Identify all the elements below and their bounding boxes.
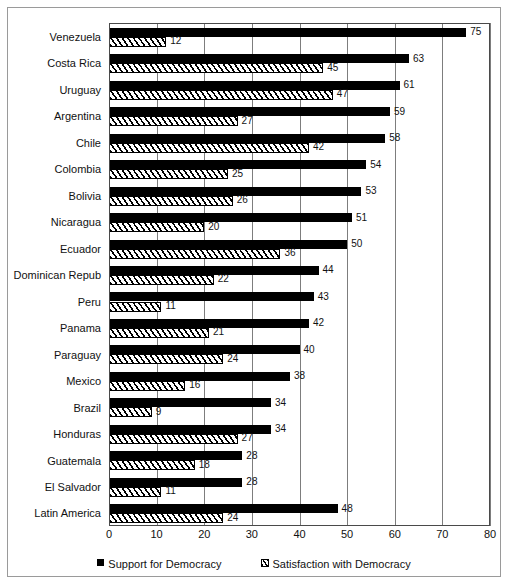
bar-support bbox=[109, 319, 309, 328]
category-label: Bolivia bbox=[69, 190, 101, 202]
category-label: Paraguay bbox=[54, 349, 101, 361]
bar-row: 5425 bbox=[109, 155, 490, 181]
category-label: Uruguay bbox=[59, 84, 101, 96]
gridline bbox=[490, 23, 491, 526]
bar-support bbox=[109, 54, 409, 63]
bar-value-support: 40 bbox=[304, 345, 315, 355]
bar-row: 7512 bbox=[109, 23, 490, 49]
bar-support bbox=[109, 187, 361, 196]
category-label: Costa Rica bbox=[47, 57, 101, 69]
bar-row: 2811 bbox=[109, 473, 490, 499]
category-label: Peru bbox=[78, 296, 101, 308]
bar-value-support: 28 bbox=[246, 477, 257, 487]
bar-value-satisfaction: 16 bbox=[189, 380, 200, 390]
bar-support bbox=[109, 345, 300, 354]
x-tick-label: 60 bbox=[389, 528, 401, 540]
bar-row: 5326 bbox=[109, 182, 490, 208]
bar-value-satisfaction: 42 bbox=[313, 142, 324, 152]
bar-satisfaction bbox=[109, 249, 280, 259]
bar-satisfaction bbox=[109, 169, 228, 179]
bar-value-support: 34 bbox=[275, 424, 286, 434]
bar-value-support: 38 bbox=[294, 371, 305, 381]
bar-value-satisfaction: 11 bbox=[165, 301, 175, 311]
bar-support bbox=[109, 28, 466, 37]
bar-satisfaction bbox=[109, 222, 204, 232]
bar-row: 5927 bbox=[109, 102, 490, 128]
x-tick-label: 50 bbox=[341, 528, 353, 540]
bar-value-support: 54 bbox=[370, 160, 381, 170]
category-label: Argentina bbox=[54, 110, 101, 122]
bar-row: 2818 bbox=[109, 447, 490, 473]
bar-value-satisfaction: 11 bbox=[165, 486, 175, 496]
bar-satisfaction bbox=[109, 487, 161, 497]
bar-value-satisfaction: 24 bbox=[227, 354, 238, 364]
bar-row: 5120 bbox=[109, 208, 490, 234]
bar-row: 6345 bbox=[109, 49, 490, 75]
bar-value-support: 75 bbox=[470, 27, 481, 37]
bar-satisfaction bbox=[109, 37, 166, 47]
bar-satisfaction bbox=[109, 381, 185, 391]
bar-value-satisfaction: 12 bbox=[170, 36, 181, 46]
bar-support bbox=[109, 81, 400, 90]
chart-legend: Support for Democracy Satisfaction with … bbox=[8, 556, 500, 570]
bar-support bbox=[109, 213, 352, 222]
bar-value-support: 44 bbox=[323, 265, 334, 275]
bar-value-satisfaction: 20 bbox=[208, 222, 219, 232]
bar-row: 4311 bbox=[109, 288, 490, 314]
legend-item-satisfaction: Satisfaction with Democracy bbox=[261, 557, 411, 570]
plot-area: 7512634561475927584254255326512050364422… bbox=[109, 23, 490, 526]
bar-satisfaction bbox=[109, 116, 238, 126]
x-tick-label: 20 bbox=[198, 528, 210, 540]
bar-value-support: 28 bbox=[246, 451, 257, 461]
x-tick-label: 10 bbox=[151, 528, 163, 540]
bar-satisfaction bbox=[109, 434, 238, 444]
bar-value-support: 50 bbox=[351, 239, 362, 249]
bar-row: 5842 bbox=[109, 129, 490, 155]
x-tick-label: 70 bbox=[436, 528, 448, 540]
bar-row: 6147 bbox=[109, 76, 490, 102]
bar-value-satisfaction: 45 bbox=[327, 63, 338, 73]
category-label: Guatemala bbox=[47, 455, 101, 467]
category-label: Mexico bbox=[66, 375, 101, 387]
bar-support bbox=[109, 240, 347, 249]
bar-support bbox=[109, 504, 338, 513]
bar-satisfaction bbox=[109, 90, 333, 100]
category-label: Latin America bbox=[34, 507, 101, 519]
category-label: Panama bbox=[60, 322, 101, 334]
category-label: Honduras bbox=[53, 428, 101, 440]
x-tick-label: 30 bbox=[246, 528, 258, 540]
bar-satisfaction bbox=[109, 407, 152, 417]
category-label: Brazil bbox=[73, 402, 101, 414]
bar-row: 5036 bbox=[109, 235, 490, 261]
bar-satisfaction bbox=[109, 460, 195, 470]
bar-value-support: 53 bbox=[365, 186, 376, 196]
bar-row: 3816 bbox=[109, 367, 490, 393]
category-label: Colombia bbox=[55, 163, 101, 175]
bar-satisfaction bbox=[109, 328, 209, 338]
bar-support bbox=[109, 398, 271, 407]
bar-value-support: 51 bbox=[356, 213, 367, 223]
bar-value-satisfaction: 36 bbox=[284, 248, 295, 258]
x-tick-label: 0 bbox=[106, 528, 112, 540]
solid-square-icon bbox=[97, 559, 104, 566]
x-axis: 01020304050607080 bbox=[109, 528, 490, 546]
bar-value-satisfaction: 27 bbox=[242, 116, 253, 126]
bar-satisfaction bbox=[109, 354, 223, 364]
x-tick-label: 40 bbox=[293, 528, 305, 540]
bar-satisfaction bbox=[109, 63, 323, 73]
bar-row: 3427 bbox=[109, 420, 490, 446]
bar-value-support: 34 bbox=[275, 398, 286, 408]
bar-value-satisfaction: 21 bbox=[213, 327, 224, 337]
category-label: Venezuela bbox=[50, 31, 101, 43]
bar-value-satisfaction: 22 bbox=[218, 274, 229, 284]
bar-satisfaction bbox=[109, 275, 214, 285]
bar-value-satisfaction: 18 bbox=[199, 460, 210, 470]
bar-support bbox=[109, 266, 319, 275]
category-axis-labels: VenezuelaCosta RicaUruguayArgentinaChile… bbox=[8, 23, 105, 526]
bar-row: 4024 bbox=[109, 341, 490, 367]
chart-figure: VenezuelaCosta RicaUruguayArgentinaChile… bbox=[7, 7, 501, 577]
bar-satisfaction bbox=[109, 302, 161, 312]
bar-value-support: 63 bbox=[413, 54, 424, 64]
bar-value-satisfaction: 27 bbox=[242, 433, 253, 443]
bar-value-support: 42 bbox=[313, 318, 324, 328]
